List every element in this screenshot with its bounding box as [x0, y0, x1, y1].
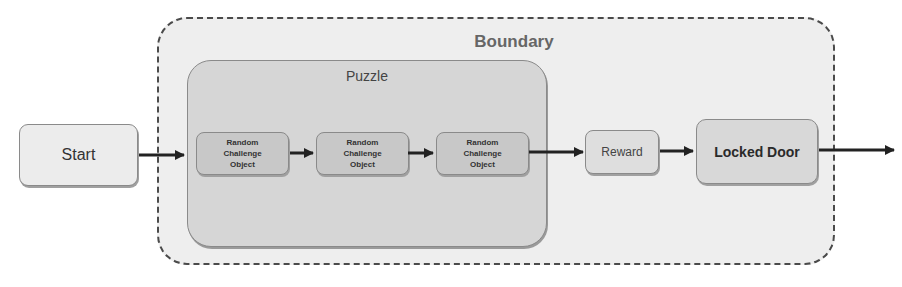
puzzle-label: Puzzle [188, 68, 546, 84]
rco-3-label: Random Challenge Object [463, 137, 501, 170]
random-challenge-object-node-2: Random Challenge Object [316, 132, 409, 175]
boundary-label-text: Boundary [474, 32, 553, 51]
diagram-canvas: Boundary Puzzle Start Random Challenge O… [0, 0, 902, 287]
reward-node: Reward [585, 130, 659, 174]
rco-1-label: Random Challenge Object [223, 137, 261, 170]
random-challenge-object-node-1: Random Challenge Object [196, 132, 289, 175]
start-node-label: Start [62, 146, 96, 164]
rco-2-label: Random Challenge Object [343, 137, 381, 170]
boundary-label: Boundary [159, 32, 833, 52]
locked-door-node: Locked Door [696, 119, 818, 184]
random-challenge-object-node-3: Random Challenge Object [436, 132, 529, 175]
start-node: Start [19, 124, 138, 186]
reward-node-label: Reward [601, 145, 642, 159]
locked-door-node-label: Locked Door [714, 144, 800, 160]
